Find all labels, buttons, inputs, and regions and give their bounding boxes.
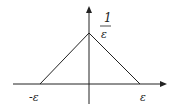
x-axis-arrow-icon bbox=[160, 81, 167, 87]
left-x-label: -ε bbox=[29, 91, 39, 104]
y-axis-arrow-icon bbox=[86, 6, 92, 13]
triangle-diagram: 1 ε -ε ε bbox=[0, 0, 174, 108]
triangle-function bbox=[40, 33, 140, 84]
right-x-label: ε bbox=[140, 91, 146, 104]
peak-label-numerator: 1 bbox=[104, 11, 112, 25]
peak-label-denominator: ε bbox=[101, 28, 107, 41]
